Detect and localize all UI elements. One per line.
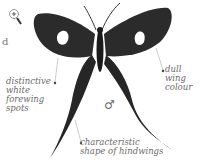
butterfly-figure: d ♂ distinctive white forewing spots dul… (0, 0, 201, 164)
label-wing-colour: dull wing colour (165, 65, 192, 92)
male-symbol: ♂ (104, 98, 115, 112)
label-forewing-spots: distinctive white forewing spots (6, 77, 51, 113)
magnifier-plus-icon[interactable] (8, 8, 22, 26)
cut-off-text: d (2, 36, 8, 47)
label-hindwings: characteristic shape of hindwings (80, 138, 163, 156)
